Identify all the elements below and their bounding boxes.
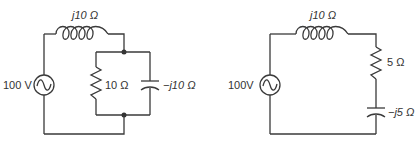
circuit-diagrams: 100 V j10 Ω 10 Ω −j10 Ω	[0, 0, 418, 148]
right-inductor-label: j10 Ω	[308, 9, 336, 21]
right-capacitor-label: −j5 Ω	[388, 106, 414, 118]
left-capacitor-label: −j10 Ω	[163, 79, 196, 91]
resistor-icon	[91, 67, 101, 99]
right-circuit: 100V j10 Ω 5 Ω −j5 Ω	[228, 9, 414, 134]
ac-source-icon	[260, 75, 280, 95]
left-bottom-wire	[44, 115, 124, 134]
left-resistor-label: 10 Ω	[105, 79, 129, 91]
left-inductor-label: j10 Ω	[70, 9, 98, 21]
inductor-icon	[56, 27, 108, 40]
inductor-icon	[296, 27, 348, 40]
left-source-label: 100 V	[3, 79, 32, 91]
right-resistor-label: 5 Ω	[387, 56, 404, 68]
resistor-icon	[371, 47, 381, 79]
left-top-right-wire	[108, 34, 124, 52]
ac-source-icon	[34, 75, 54, 95]
right-top-right-wire	[348, 34, 376, 47]
right-source-label: 100V	[228, 79, 254, 91]
left-circuit: 100 V j10 Ω 10 Ω −j10 Ω	[3, 9, 196, 134]
